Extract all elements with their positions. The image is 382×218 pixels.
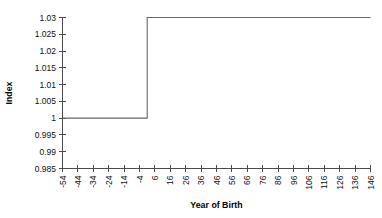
x-tick-label: 106 [304,175,314,189]
x-tick-label: 66 [242,175,252,185]
x-tick-label: 6 [150,175,160,180]
x-tick-label: -24 [104,175,114,188]
x-tick-label: 36 [196,175,206,185]
y-tick-label: 1 [51,113,56,123]
chart-figure: 1.031.0251.021.0151.011.00510.9950.990.9… [0,0,382,218]
x-tick-label: 136 [350,175,360,189]
y-tick-label: 1.025 [35,29,57,39]
y-tick-label: 0.99 [39,147,56,157]
x-tick-label: -34 [88,175,98,188]
x-axis-title: Year of Birth [190,200,242,210]
x-tick-label: 56 [227,175,237,185]
line-chart: 1.031.0251.021.0151.011.00510.9950.990.9… [0,0,382,218]
y-tick-label: 1.02 [39,46,56,56]
x-tick-label: 26 [181,175,191,185]
y-tick-label: 1.01 [39,80,56,90]
y-tick-label: 1.005 [35,96,57,106]
x-tick-label: 46 [212,175,222,185]
x-tick-label: 116 [319,175,329,189]
x-tick-label: 76 [258,175,268,185]
y-tick-label: 0.995 [35,130,57,140]
x-tick-label: 86 [273,175,283,185]
x-tick-label: -54 [58,175,68,188]
x-tick-label: -14 [119,175,129,188]
x-tick-label: 146 [366,175,376,189]
x-tick-label: 16 [165,175,175,185]
x-tick-label: -44 [73,175,83,188]
x-tick-label: -4 [135,175,145,183]
y-axis-title: Index [4,81,14,104]
x-tick-label: 126 [335,175,345,189]
series-line-index [63,18,371,119]
x-tick-label: 96 [289,175,299,185]
y-tick-label: 1.03 [39,13,56,23]
y-tick-label: 1.015 [35,63,57,73]
y-tick-label: 0.985 [35,164,57,174]
